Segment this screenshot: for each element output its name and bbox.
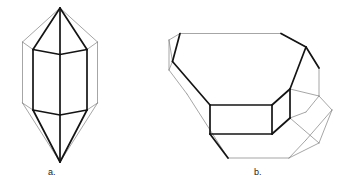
crystal-figure: a. b. bbox=[0, 0, 355, 189]
crystal-drawing-svg bbox=[0, 0, 355, 189]
figure-label-a: a. bbox=[48, 167, 56, 177]
figure-label-b: b. bbox=[254, 167, 262, 177]
figure-background bbox=[0, 0, 355, 189]
